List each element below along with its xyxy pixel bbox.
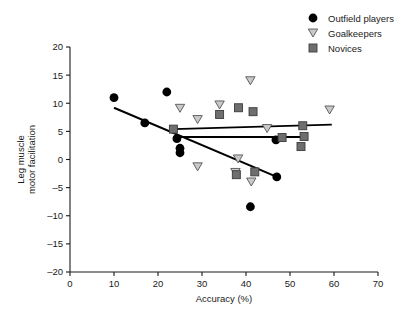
legend: Outfield playersGoalkeepersNovices — [308, 13, 394, 54]
data-point-outfield-players — [272, 173, 281, 182]
data-point-goalkeepers — [193, 163, 202, 171]
data-point-novices — [278, 134, 286, 142]
legend-marker-triangle-down — [308, 29, 317, 37]
legend-label-2: Novices — [328, 43, 362, 54]
y-tick-label: 0 — [58, 154, 63, 165]
data-point-goalkeepers — [175, 104, 184, 112]
y-tick-label: –5 — [52, 182, 63, 193]
data-point-outfield-players — [173, 134, 182, 143]
legend-marker-circle — [309, 14, 318, 23]
data-point-outfield-players — [162, 88, 171, 97]
data-point-novices — [297, 143, 305, 151]
data-point-novices — [235, 104, 243, 112]
data-point-outfield-players — [110, 93, 119, 102]
y-tick-label: –15 — [47, 238, 63, 249]
y-tick-label: 10 — [52, 98, 63, 109]
x-tick-label: 40 — [241, 278, 252, 289]
y-tick-label: –10 — [47, 210, 63, 221]
y-tick-label: 20 — [52, 41, 63, 52]
data-point-novices — [216, 111, 224, 119]
x-tick-label: 0 — [67, 278, 72, 289]
legend-label-0: Outfield players — [328, 13, 394, 24]
data-point-novices — [251, 168, 259, 176]
y-tick-label: 15 — [52, 70, 63, 81]
data-point-outfield-players — [246, 202, 255, 211]
x-axis-title: Accuracy (%) — [196, 293, 252, 304]
data-point-goalkeepers — [247, 178, 256, 186]
data-point-outfield-players — [140, 119, 149, 128]
y-axis-title-line1: Leg muscle — [15, 135, 26, 184]
legend-marker-square — [309, 44, 317, 52]
x-tick-label: 30 — [197, 278, 208, 289]
x-tick-label: 50 — [285, 278, 296, 289]
data-point-novices — [300, 132, 308, 140]
data-point-goalkeepers — [262, 125, 271, 133]
data-point-goalkeepers — [325, 106, 334, 114]
y-tick-label: –20 — [47, 266, 63, 277]
y-axis-title-line2: motor facilitation — [26, 125, 37, 194]
legend-label-1: Goalkeepers — [328, 28, 382, 39]
data-point-goalkeepers — [246, 77, 255, 85]
data-point-goalkeepers — [193, 116, 202, 124]
data-point-novices — [169, 125, 177, 133]
data-point-goalkeepers — [215, 101, 224, 109]
x-tick-label: 70 — [373, 278, 384, 289]
data-point-novices — [249, 108, 257, 116]
axes-group — [66, 47, 378, 276]
y-tick-label: 5 — [58, 126, 63, 137]
x-tick-label: 10 — [109, 278, 120, 289]
scatter-plot-figure: Outfield playersGoalkeepersNovices –20–1… — [0, 0, 408, 316]
regression-line-goalkeepers — [173, 125, 331, 130]
x-tick-label: 60 — [329, 278, 340, 289]
data-point-outfield-players — [176, 148, 185, 157]
data-point-novices — [299, 122, 307, 130]
data-point-novices — [232, 171, 240, 179]
plot-canvas: Outfield playersGoalkeepersNovices –20–1… — [0, 0, 408, 316]
x-tick-label: 20 — [153, 278, 164, 289]
data-points-group — [110, 77, 335, 211]
